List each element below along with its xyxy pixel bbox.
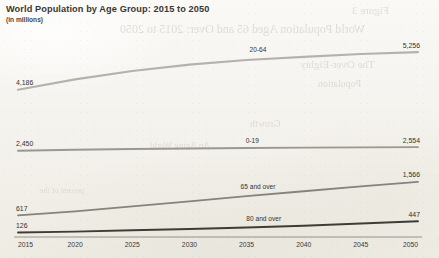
x-axis-tick-label: 2035 — [239, 241, 254, 248]
series-name-label: 65 and over — [241, 183, 277, 190]
x-axis-tick-label: 2020 — [68, 241, 83, 248]
series-start-value-label: 4,186 — [16, 79, 33, 86]
series-end-value-label: 1,566 — [403, 171, 420, 178]
x-axis-group: 20152020202520302035204020452050 — [14, 237, 422, 248]
series-line — [18, 221, 418, 232]
population-line-chart: World Population by Age Group: 2015 to 2… — [0, 0, 439, 258]
series-name-label: 80 and over — [246, 215, 282, 222]
series-start-value-label: 2,450 — [16, 140, 33, 147]
series-name-label: 0-19 — [246, 137, 260, 144]
x-axis-tick-label: 2015 — [18, 241, 33, 248]
series-end-value-label: 2,554 — [403, 137, 420, 144]
data-labels-group: 4,1865,25620-642,4502,5540-196171,56665 … — [16, 42, 420, 229]
series-line — [18, 182, 418, 215]
x-axis-tick-label: 2045 — [353, 241, 368, 248]
x-axis-tick-label: 2040 — [296, 241, 311, 248]
series-end-value-label: 447 — [409, 211, 421, 218]
chart-plot-area: 20152020202520302035204020452050 4,1865,… — [0, 0, 439, 258]
series-line — [18, 52, 418, 90]
series-start-value-label: 617 — [16, 205, 28, 212]
x-axis-tick-label: 2030 — [182, 241, 197, 248]
x-axis-tick-label: 2050 — [403, 241, 418, 248]
x-axis-tick-label: 2025 — [125, 241, 140, 248]
series-lines-group — [18, 52, 418, 232]
series-end-value-label: 5,256 — [403, 42, 420, 49]
series-line — [18, 147, 418, 151]
series-name-label: 20-64 — [250, 46, 267, 53]
series-start-value-label: 126 — [16, 222, 28, 229]
